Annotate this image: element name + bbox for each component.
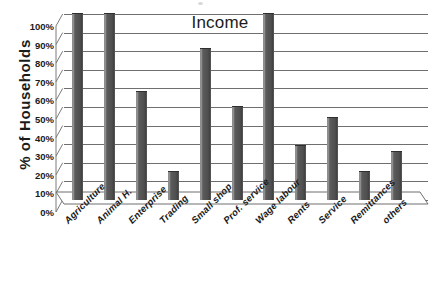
bar-enterprise	[136, 91, 147, 200]
scan-artifact	[198, 2, 203, 5]
y-axis-tick-30: 30%	[12, 151, 54, 162]
bars-group	[56, 14, 428, 212]
y-axis-tick-10: 10%	[12, 188, 54, 199]
bar-wage-labour	[263, 13, 274, 200]
y-axis-tick-20: 20%	[12, 169, 54, 180]
bar-rents	[295, 145, 306, 200]
y-axis-tick-60: 60%	[12, 95, 54, 106]
y-axis-tick-90: 90%	[12, 39, 54, 50]
chart-title: Income	[150, 13, 290, 33]
y-axis-tick-70: 70%	[12, 76, 54, 87]
y-axis-tick-labels: 100%90%80%70%60%50%40%30%20%10%0%	[12, 14, 54, 206]
y-axis-tick-50: 50%	[12, 114, 54, 125]
y-axis-tick-80: 80%	[12, 58, 54, 69]
bar-others	[391, 151, 402, 200]
bar-prof-service	[232, 106, 243, 200]
x-axis-category-labels: AgricultureAnimal H.EnterpriseTradingSma…	[0, 212, 440, 307]
bar-agriculture	[72, 13, 83, 200]
bar-remittances	[359, 171, 370, 200]
y-axis-tick-100: 100%	[12, 21, 54, 32]
income-bar-chart: % of Households 100%90%80%70%60%50%40%30…	[0, 0, 440, 307]
bar-service	[327, 117, 338, 200]
y-axis-tick-40: 40%	[12, 132, 54, 143]
bar-animal-h	[104, 13, 115, 200]
bar-trading	[168, 171, 179, 200]
bar-small-shop	[200, 48, 211, 200]
